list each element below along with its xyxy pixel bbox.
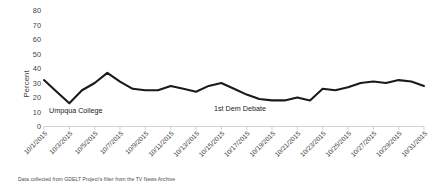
x-axis-tick-label: 10/19/2015 xyxy=(248,130,277,159)
x-axis-tick-label: 10/31/2015 xyxy=(400,130,429,159)
y-axis-tick-20: 20 xyxy=(33,93,41,102)
y-axis-title: Percent xyxy=(22,69,31,97)
x-axis-tick-label: 10/7/2015 xyxy=(99,130,125,156)
chart-figure: Percent 01020304050607080 Umpqua College… xyxy=(0,0,435,189)
y-axis-tick-50: 50 xyxy=(33,50,41,59)
y-axis-tick-80: 80 xyxy=(33,6,41,15)
x-axis-tick-label: 10/1/2015 xyxy=(23,130,49,156)
x-axis-tick-labels: 10/1/201510/3/201510/5/201510/7/201510/9… xyxy=(23,130,429,159)
x-axis-tick-label: 10/13/2015 xyxy=(172,130,201,159)
y-axis-title-group: Percent xyxy=(22,69,31,97)
x-axis-tick-label: 10/5/2015 xyxy=(73,130,99,156)
y-axis-tick-40: 40 xyxy=(33,64,41,73)
data-series-line xyxy=(44,73,424,103)
annotation-first-dem-debate-label: 1st Dem Debate xyxy=(214,104,266,113)
y-axis-tick-60: 60 xyxy=(33,35,41,44)
x-axis-tick-label: 10/11/2015 xyxy=(147,130,175,158)
y-axis-tick-70: 70 xyxy=(33,21,41,30)
y-axis-tick-0: 0 xyxy=(37,122,41,131)
y-axis-tick-labels: 01020304050607080 xyxy=(33,6,41,131)
x-axis-tick-label: 10/9/2015 xyxy=(124,130,150,156)
series-group xyxy=(44,73,424,103)
annotation-first-dem-debate: 1st Dem Debate xyxy=(214,104,266,113)
x-axis-tick-label: 10/15/2015 xyxy=(197,130,226,159)
annotation-umpqua-college: Umpqua College xyxy=(49,106,103,115)
x-axis-tick-label: 10/17/2015 xyxy=(223,130,252,159)
x-axis-tick-label: 10/21/2015 xyxy=(273,130,302,159)
x-axis-tick-label: 10/29/2015 xyxy=(375,130,404,159)
source-caption: Data collected from GDELT Project's filt… xyxy=(18,176,175,182)
caption-group: Data collected from GDELT Project's filt… xyxy=(18,176,175,182)
x-axis-tick-label: 10/25/2015 xyxy=(324,130,353,159)
x-axis-tickmarks xyxy=(44,127,424,131)
chart-svg: Percent 01020304050607080 Umpqua College… xyxy=(0,0,435,189)
x-axis-tick-label: 10/3/2015 xyxy=(48,130,74,156)
y-axis-tick-10: 10 xyxy=(33,108,41,117)
y-axis-tick-30: 30 xyxy=(33,79,41,88)
x-axis-tick-label: 10/27/2015 xyxy=(349,130,378,159)
annotation-umpqua-college-label: Umpqua College xyxy=(49,106,103,115)
x-axis-tick-label: 10/23/2015 xyxy=(299,130,328,159)
